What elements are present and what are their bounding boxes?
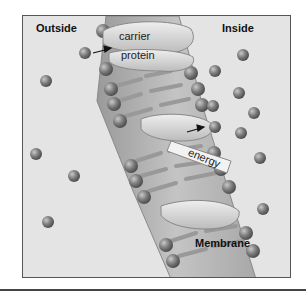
membrane-illustration	[23, 16, 291, 278]
protein-label: protein	[121, 49, 155, 61]
membrane-label: Membrane	[195, 237, 250, 249]
carrier-label: carrier	[119, 30, 150, 42]
molecules-outside	[30, 47, 91, 228]
outside-label: Outside	[36, 22, 77, 34]
bottom-rule	[0, 289, 306, 291]
inside-label: Inside	[222, 22, 254, 34]
diagram-frame: Outside Inside carrier protein energy Me…	[22, 15, 291, 278]
